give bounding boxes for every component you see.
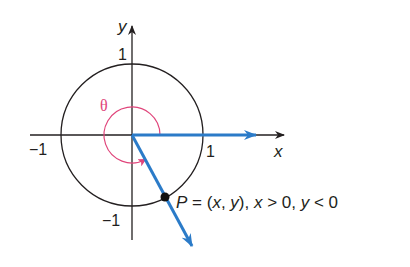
unit-circle-diagram: y x 1 −1 −1 1 θ P = (x, y), x > 0, y < 0 [0,0,410,267]
p-lt: < 0 [309,193,338,212]
y-tick-1: 1 [118,46,127,63]
p-x-cond: x [253,193,263,212]
x-tick-1: 1 [206,143,215,160]
p-eq: = ( [187,193,212,212]
theta-label: θ [100,97,108,114]
p-close: ), [239,193,254,212]
x-tick-neg1: −1 [29,141,47,158]
x-axis-label: x [273,142,283,161]
y-tick-neg1: −1 [102,212,120,229]
terminal-side-ray [132,135,192,246]
point-p-label: P = (x, y), x > 0, y < 0 [176,193,338,212]
p-x: x [211,193,221,212]
p-comma: , [221,193,230,212]
point-p-dot [161,193,170,202]
p-name: P [176,193,188,212]
y-axis-label: y [117,17,128,36]
p-gt: > 0, [262,193,300,212]
